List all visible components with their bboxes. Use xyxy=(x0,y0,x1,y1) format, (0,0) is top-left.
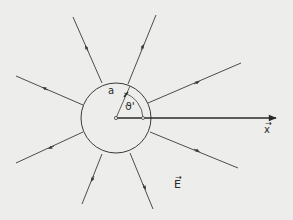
field-line-lower-right xyxy=(130,153,153,209)
radius-label: a xyxy=(108,86,114,96)
diagram-canvas xyxy=(0,0,293,220)
x-axis-label: → x xyxy=(264,125,273,135)
angle-label: ϑ' xyxy=(125,101,135,112)
arrow-icon xyxy=(44,88,48,90)
radius-label-text: a xyxy=(108,85,114,96)
angle-label-text: ϑ' xyxy=(125,100,135,113)
field-line-left-upper xyxy=(16,76,83,105)
field-line-right-upper xyxy=(148,63,241,103)
arrow-icon xyxy=(86,47,88,51)
field-line-upper-right xyxy=(128,15,156,84)
vector-arrow-icon: → xyxy=(264,120,273,128)
field-label: → E xyxy=(174,179,183,190)
angle-marker xyxy=(142,117,145,120)
field-arrows xyxy=(44,46,198,188)
origin-marker xyxy=(114,116,117,119)
field-line-left-lower xyxy=(16,132,83,163)
vector-arrow-icon: → xyxy=(174,174,183,182)
field-line-right-lower xyxy=(150,132,238,168)
